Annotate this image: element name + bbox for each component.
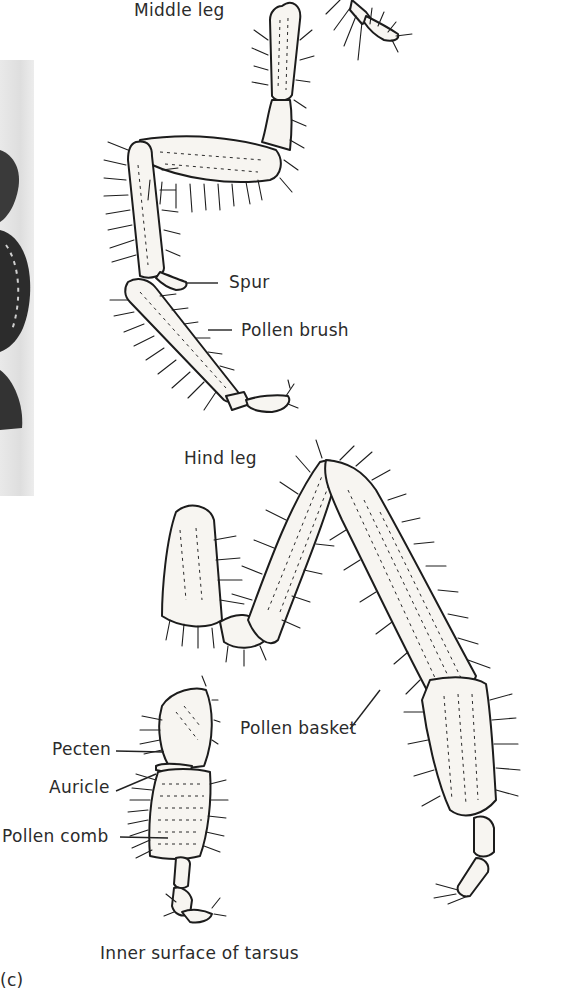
pollen-basket-label: Pollen basket <box>240 718 356 738</box>
pollen-comb-label: Pollen comb <box>2 826 109 846</box>
hind-leg-title: Hind leg <box>184 448 257 468</box>
middle-leg-title: Middle leg <box>134 0 225 20</box>
middle-leg-drawing <box>104 0 412 412</box>
inner-tarsus-drawing <box>128 676 228 923</box>
pecten-leader <box>116 751 164 752</box>
figure-caption: Inner surface of tarsus <box>100 943 299 963</box>
auricle-label: Auricle <box>49 777 110 797</box>
pollen-comb-leader <box>120 837 168 838</box>
panel-label: (c) <box>0 970 24 990</box>
pecten-label: Pecten <box>52 739 111 759</box>
spur-label: Spur <box>229 272 270 292</box>
pollen-brush-label: Pollen brush <box>241 320 349 340</box>
leader-lines <box>116 283 380 838</box>
